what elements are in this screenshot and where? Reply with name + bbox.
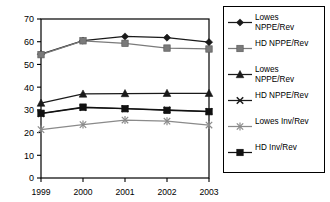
series-layer [37,33,213,134]
x-tick-label: 1999 [31,187,50,197]
legend-item-label: HD NPPE/Rev [255,91,308,101]
data-point-marker [206,46,212,52]
chart-series [38,38,212,58]
y-tick-label: 10 [24,151,34,161]
data-point-marker [164,45,170,51]
y-tick-label: 50 [24,60,34,70]
chart-series [37,89,213,106]
legend-item[interactable]: HD NPPE/Rev [227,39,321,65]
data-point-marker [121,33,128,40]
y-axis-tick-labels: 010203040506070 [24,14,34,183]
legend-item[interactable]: Lowes NPPE/Rev [227,13,321,39]
data-point-marker [206,108,212,114]
data-point-marker [163,34,170,41]
y-tick-label: 30 [24,105,34,115]
legend-item-label: Lowes NPPE/Rev [255,13,294,32]
chart-legend: Lowes NPPE/RevHD NPPE/RevLowes NPPE/RevH… [223,6,325,173]
data-point-marker [38,51,44,57]
data-point-marker [122,106,128,112]
legend-item-label: Lowes Inv/Rev [255,117,309,127]
y-tick-label: 40 [24,83,34,93]
x-tick-label: 2002 [157,187,176,197]
data-point-marker [236,19,243,26]
x-tick-label: 2001 [115,187,134,197]
x-tick-label: 2000 [73,187,92,197]
y-tick-label: 70 [24,14,34,24]
data-point-marker [80,104,86,110]
legend-item[interactable]: Lowes Inv/Rev [227,117,321,143]
data-point-marker [80,38,86,44]
asterisk-marker-icon [227,118,253,129]
chart-figure: 010203040506070 19992000200120022003 Low… [0,0,330,202]
square-marker-icon [227,40,253,51]
y-tick-label: 0 [29,173,34,183]
data-point-marker [237,45,243,51]
x-axis-tick-marks [41,178,209,182]
y-tick-label: 60 [24,37,34,47]
legend-item[interactable]: HD NPPE/Rev [227,91,321,117]
legend-item-label: HD Inv/Rev [255,143,297,153]
data-point-marker [205,39,212,46]
x-tick-label: 2003 [199,187,218,197]
data-point-marker [237,149,243,155]
data-point-marker [38,110,44,116]
x-marker-icon [227,92,253,103]
legend-item-label: HD NPPE/Rev [255,39,308,49]
plot-area: 010203040506070 19992000200120022003 [0,0,222,202]
x-axis-tick-labels: 19992000200120022003 [31,187,218,197]
data-point-marker [164,107,170,113]
filled-square-marker-icon [227,144,253,155]
triangle-marker-icon [227,66,253,77]
line-chart-svg: 010203040506070 19992000200120022003 [0,0,222,202]
diamond-marker-icon [227,14,253,25]
legend-item-label: Lowes NPPE/Rev [255,65,294,84]
legend-item[interactable]: HD Inv/Rev [227,143,321,169]
chart-series [38,116,212,134]
data-point-marker [122,40,128,46]
legend-item[interactable]: Lowes NPPE/Rev [227,65,321,91]
y-tick-label: 20 [24,128,34,138]
